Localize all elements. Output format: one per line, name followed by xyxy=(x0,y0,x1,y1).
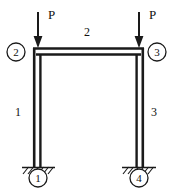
member-label-1: 1 xyxy=(15,106,21,118)
portal-frame-diagram: P P 1 2 3 2 3 1 4 xyxy=(0,0,173,192)
member-2-beam xyxy=(33,49,144,55)
node-label-3: 3 xyxy=(150,47,164,58)
member-1-column xyxy=(34,48,40,167)
node-label-4: 4 xyxy=(132,173,146,184)
node-label-2: 2 xyxy=(9,47,23,58)
load-label-right: P xyxy=(149,8,156,21)
member-label-3: 3 xyxy=(151,106,157,118)
load-label-left: P xyxy=(48,8,55,21)
frame-members xyxy=(33,48,144,167)
load-arrow-right xyxy=(135,12,144,48)
member-3-column xyxy=(137,48,143,167)
member-label-2: 2 xyxy=(84,26,90,38)
node-label-1: 1 xyxy=(31,173,45,184)
load-arrow-left xyxy=(34,12,43,48)
